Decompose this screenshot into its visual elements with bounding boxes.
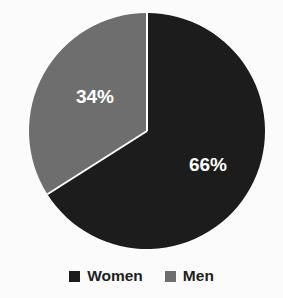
legend-label-men: Men <box>183 268 214 284</box>
legend-swatch-women-icon <box>69 271 80 282</box>
pie-chart-canvas: 66%34% <box>0 0 283 298</box>
pie-chart: 66%34% Women Men <box>0 0 283 298</box>
legend-item-women[interactable]: Women <box>69 268 143 284</box>
legend-swatch-men-icon <box>165 271 176 282</box>
slice-value-label-men: 34% <box>76 86 114 107</box>
legend-item-men[interactable]: Men <box>165 268 214 284</box>
legend-label-women: Women <box>87 268 143 284</box>
slice-value-label-women: 66% <box>189 154 227 175</box>
chart-legend: Women Men <box>0 264 283 288</box>
